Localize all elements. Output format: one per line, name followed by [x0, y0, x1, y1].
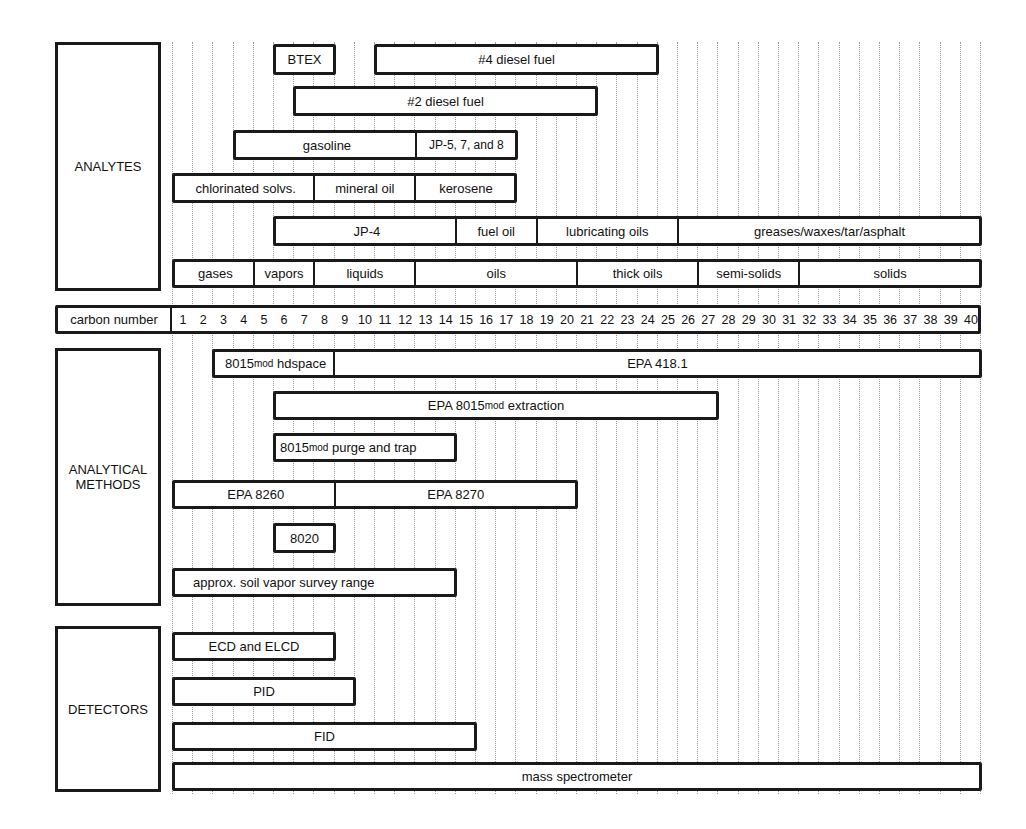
- analyte-greases-waxes-tar-asphalt: greases/waxes/tar/asphalt: [677, 219, 980, 243]
- carbon-number-label: carbon number: [58, 308, 172, 331]
- detector-fid-label: FID: [314, 729, 335, 744]
- carbon-number-cell: 25: [658, 308, 678, 331]
- analyte-row-solvents: chlorinated solvs. mineral oil kerosene: [172, 173, 517, 203]
- carbon-number-cell: 16: [476, 308, 496, 331]
- carbon-number-cell: 15: [456, 308, 476, 331]
- phase-gases-label: gases: [198, 266, 233, 281]
- carbon-number-cell: 11: [375, 308, 395, 331]
- phase-thick-oils-label: thick oils: [613, 266, 663, 281]
- analyte-chlorinated-solvents-label: chlorinated solvs.: [195, 181, 295, 196]
- method-hdspace-sub: mod: [254, 358, 273, 369]
- grid-line: [839, 42, 840, 794]
- method-purge-trap-suffix: purge and trap: [328, 440, 416, 455]
- grid-line: [919, 42, 920, 794]
- grid-line: [960, 42, 961, 794]
- carbon-number-cell: 26: [678, 308, 698, 331]
- category-analytes: ANALYTES: [55, 42, 161, 291]
- analyte-gasoline-label: gasoline: [303, 138, 351, 153]
- grid-line: [738, 42, 739, 794]
- carbon-number-cell: 19: [537, 308, 557, 331]
- detector-mass-spectrometer: mass spectrometer: [172, 762, 982, 791]
- grid-line: [818, 42, 819, 794]
- grid-line: [778, 42, 779, 794]
- phase-oils: oils: [414, 262, 576, 285]
- carbon-number-cell: 1: [173, 308, 193, 331]
- phase-liquids-label: liquids: [346, 266, 383, 281]
- category-methods-label-line1: ANALYTICAL: [69, 462, 148, 477]
- carbon-number-cell: 40: [961, 308, 981, 331]
- method-extraction-sub: mod: [485, 400, 504, 411]
- carbon-number-cell: 28: [718, 308, 738, 331]
- category-analytes-label: ANALYTES: [75, 159, 142, 174]
- phase-vapors: vapors: [253, 262, 314, 285]
- method-8020: 8020: [273, 523, 336, 553]
- carbon-number-cell: 2: [193, 308, 213, 331]
- method-row-hdspace-418: 8015mod hdspace EPA 418.1: [212, 349, 982, 378]
- detector-pid-label: PID: [253, 684, 275, 699]
- carbon-number-cell: 24: [638, 308, 658, 331]
- carbon-number-cell: 31: [779, 308, 799, 331]
- carbon-number-cell: 17: [496, 308, 516, 331]
- method-extraction-prefix: EPA 8015: [428, 398, 485, 413]
- analyte-jp-5-7-8: JP-5, 7, and 8: [415, 133, 516, 157]
- method-purge-trap-sub: mod: [309, 442, 328, 453]
- grid-line: [980, 42, 981, 794]
- carbon-number-cell: 38: [920, 308, 940, 331]
- carbon-number-cell: 29: [739, 308, 759, 331]
- carbon-number-cell: 23: [617, 308, 637, 331]
- method-extraction-suffix: extraction: [504, 398, 564, 413]
- phase-solids-label: solids: [873, 266, 906, 281]
- method-soil-vapor-survey: approx. soil vapor survey range: [172, 568, 457, 597]
- carbon-number-cell: 7: [294, 308, 314, 331]
- grid-line: [879, 42, 880, 794]
- analyte-kerosene: kerosene: [414, 176, 515, 200]
- category-analytical-methods: ANALYTICAL METHODS: [55, 348, 161, 606]
- method-8015mod-hdspace: 8015mod hdspace: [215, 352, 336, 375]
- detector-ecd-elcd: ECD and ELCD: [172, 632, 336, 661]
- grid-line: [798, 42, 799, 794]
- category-detectors: DETECTORS: [55, 626, 161, 792]
- grid-line: [940, 42, 941, 794]
- carbon-number-cell: 20: [557, 308, 577, 331]
- analyte-lubricating-oils: lubricating oils: [536, 219, 677, 243]
- analyte-diesel-4-label: #4 diesel fuel: [478, 52, 555, 67]
- analyte-mineral-oil: mineral oil: [313, 176, 414, 200]
- analyte-gasoline: gasoline: [236, 133, 418, 157]
- analyte-btex: BTEX: [273, 44, 336, 75]
- method-epa-8260-label: EPA 8260: [227, 487, 284, 502]
- detector-pid: PID: [172, 677, 356, 706]
- detector-ecd-label: ECD and ELCD: [208, 639, 299, 654]
- carbon-number-cell: 13: [415, 308, 435, 331]
- carbon-number-cell: 4: [234, 308, 254, 331]
- carbon-number-cell: 27: [698, 308, 718, 331]
- analyte-fuel-oil: fuel oil: [455, 219, 536, 243]
- grid-line: [758, 42, 759, 794]
- method-hdspace-suffix: hdspace: [273, 356, 326, 371]
- detector-fid: FID: [172, 722, 477, 751]
- analyte-greases-label: greases/waxes/tar/asphalt: [754, 224, 905, 239]
- phase-thick-oils: thick oils: [576, 262, 697, 285]
- grid-line: [859, 42, 860, 794]
- carbon-number-cell: 37: [900, 308, 920, 331]
- method-epa-8270-label: EPA 8270: [427, 487, 484, 502]
- grid-line: [899, 42, 900, 794]
- phase-vapors-label: vapors: [265, 266, 304, 281]
- phase-liquids: liquids: [313, 262, 414, 285]
- analyte-btex-label: BTEX: [288, 52, 322, 67]
- method-epa-8015mod-extraction: EPA 8015mod extraction: [273, 391, 719, 420]
- phase-solids: solids: [798, 262, 980, 285]
- method-epa-8260: EPA 8260: [175, 483, 337, 506]
- analyte-chlorinated-solvents: chlorinated solvs.: [175, 176, 316, 200]
- carbon-number-cell: 35: [860, 308, 880, 331]
- carbon-number-cell: 39: [941, 308, 961, 331]
- method-purge-trap-prefix: 8015: [280, 440, 309, 455]
- carbon-number-cells: 1234567891011121314151617181920212223242…: [172, 308, 978, 331]
- analyte-row-gasoline-jp: gasoline JP-5, 7, and 8: [233, 130, 518, 160]
- carbon-number-cell: 14: [436, 308, 456, 331]
- method-soil-vapor-label: approx. soil vapor survey range: [193, 575, 374, 590]
- carbon-number-cell: 12: [395, 308, 415, 331]
- phase-gases: gases: [175, 262, 256, 285]
- analyte-jp-5-7-8-label: JP-5, 7, and 8: [429, 138, 504, 152]
- analyte-lubricating-oils-label: lubricating oils: [566, 224, 648, 239]
- method-epa-418-1: EPA 418.1: [333, 352, 979, 375]
